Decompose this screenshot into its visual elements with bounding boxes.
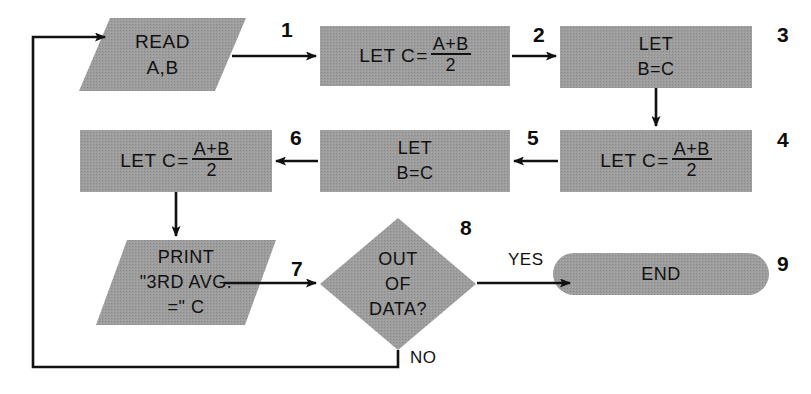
node-let-b-c-2-shape [320, 130, 510, 192]
step-number-5: 5 [527, 126, 539, 150]
node-end-shape [553, 253, 769, 295]
edge-label-yes: YES [508, 250, 544, 270]
node-read-shape [79, 18, 246, 91]
step-number-7: 7 [291, 257, 303, 281]
step-number-9: 9 [777, 252, 789, 276]
step-number-4: 4 [777, 128, 789, 152]
flowchart-graphics [0, 0, 811, 394]
node-let-c-3-shape [80, 130, 272, 192]
edge-label-no: NO [410, 348, 437, 368]
step-number-8: 8 [460, 216, 472, 240]
node-let-b-c-1-shape [560, 26, 752, 88]
flowchart-canvas: READ A,B 1 LET C = A+B 2 2 LET B=C 3 LET… [0, 0, 811, 394]
step-number-2: 2 [533, 23, 545, 47]
step-number-6: 6 [290, 126, 302, 150]
step-number-1: 1 [281, 18, 293, 42]
node-decision-shape [320, 218, 476, 350]
node-let-c-2-shape [560, 130, 752, 192]
step-number-3: 3 [777, 23, 789, 47]
node-let-c-1-shape [320, 26, 510, 86]
